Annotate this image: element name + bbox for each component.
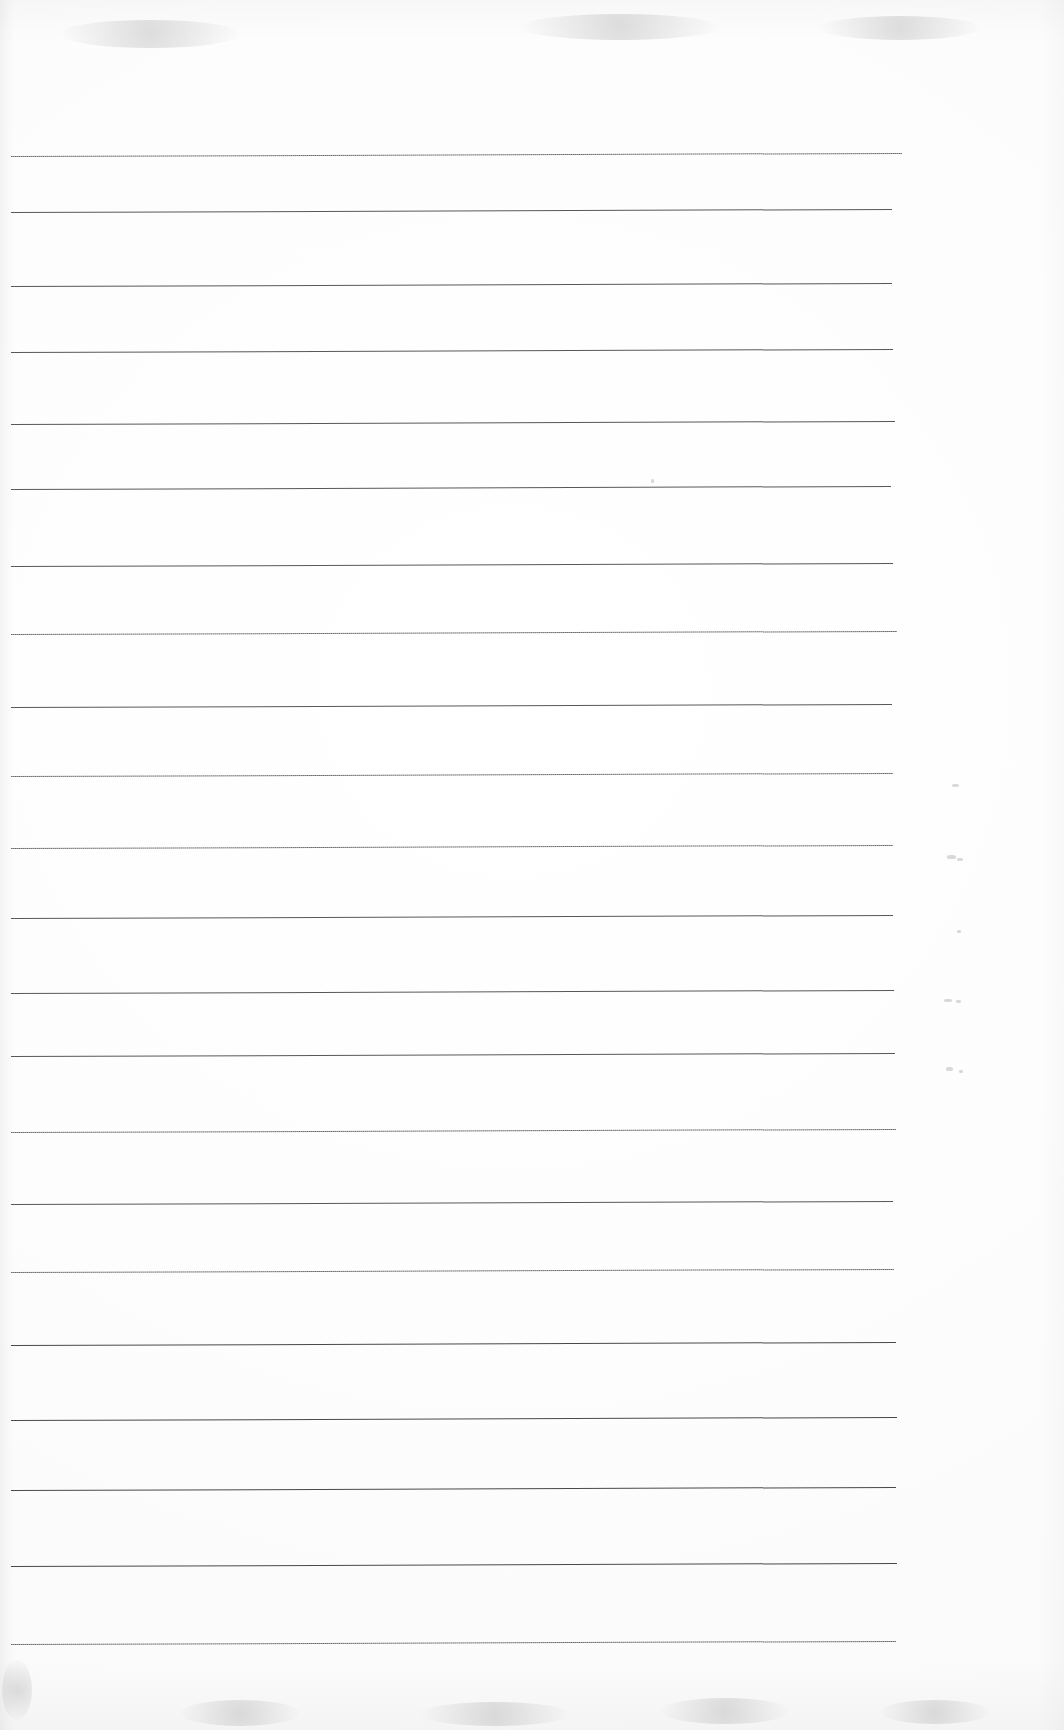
scan-smudge <box>660 1698 790 1724</box>
scan-smudge <box>880 1700 990 1724</box>
scan-speck <box>944 999 952 1002</box>
scan-speck <box>952 784 959 787</box>
scan-smudge <box>180 1700 300 1726</box>
scan-smudge <box>420 1702 570 1726</box>
scanned-page <box>0 0 1064 1730</box>
scan-speck <box>957 930 961 933</box>
scan-artifact-layer <box>0 0 1064 1730</box>
scan-speck <box>651 479 654 483</box>
scan-smudge <box>520 14 720 40</box>
scan-speck <box>947 855 956 859</box>
scan-smudge <box>60 20 240 48</box>
scan-speck <box>957 858 963 861</box>
scan-speck <box>946 1067 953 1071</box>
scan-speck <box>956 1000 961 1003</box>
scan-speck <box>959 1070 963 1073</box>
scan-smudge <box>820 16 980 40</box>
scan-smudge <box>2 1660 32 1720</box>
